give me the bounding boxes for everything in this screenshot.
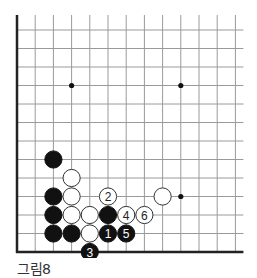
figure-caption: 그림8 <box>17 258 50 278</box>
white-stone <box>63 206 80 223</box>
move-number-label: 2 <box>105 190 112 204</box>
star-point-icon <box>178 83 183 88</box>
black-stone <box>45 206 62 223</box>
move-number-label: 6 <box>141 209 148 223</box>
white-stone <box>63 188 80 205</box>
black-stone <box>99 206 116 223</box>
white-stone <box>81 206 98 223</box>
move-number-label: 4 <box>123 209 130 223</box>
move-number-label: 3 <box>86 246 93 259</box>
star-point-icon <box>178 194 183 199</box>
star-point-icon <box>69 83 74 88</box>
black-stone <box>45 151 62 168</box>
black-stone <box>45 225 62 242</box>
white-stone <box>81 225 98 242</box>
black-stone <box>45 188 62 205</box>
go-board: 246153 <box>0 0 257 258</box>
black-stone <box>63 225 80 242</box>
white-stone <box>154 188 171 205</box>
move-number-label: 1 <box>105 227 112 241</box>
move-number-label: 5 <box>123 227 130 241</box>
white-stone <box>63 169 80 186</box>
